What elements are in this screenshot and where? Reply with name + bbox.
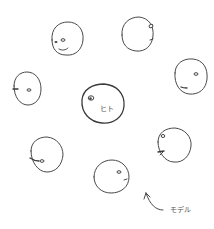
sketch-canvas: ヒト モデル <box>0 0 214 229</box>
node-bottom-left <box>30 137 63 172</box>
node-bottom-right <box>158 128 191 162</box>
node-left <box>13 72 41 105</box>
node-bottom-center <box>94 160 129 193</box>
node-right <box>175 59 207 94</box>
node-center-human: ヒト <box>82 84 124 123</box>
human-label: ヒト <box>100 105 114 113</box>
node-top-right <box>122 17 154 51</box>
node-top-left <box>52 22 83 55</box>
model-label: モデル <box>170 205 191 214</box>
model-annotation: モデル <box>144 193 191 214</box>
